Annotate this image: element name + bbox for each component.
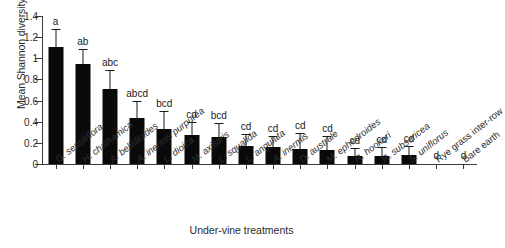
significance-letter: bcd bbox=[156, 98, 172, 109]
x-tick-mark bbox=[137, 164, 138, 169]
x-tick-mark bbox=[110, 164, 111, 169]
y-tick-label: 0.4 bbox=[24, 116, 38, 127]
significance-letter: abc bbox=[102, 57, 118, 68]
x-tick-mark bbox=[436, 164, 437, 169]
significance-letter: abcd bbox=[126, 88, 148, 99]
x-tick-mark bbox=[273, 164, 274, 169]
x-tick-mark bbox=[219, 164, 220, 169]
significance-letter: cd bbox=[295, 120, 306, 131]
bar-item: a bbox=[42, 16, 69, 164]
error-bar bbox=[109, 71, 110, 89]
y-tick-label: 0.6 bbox=[24, 95, 38, 106]
error-bar bbox=[137, 102, 138, 118]
y-tick-label: 0.2 bbox=[24, 137, 38, 148]
x-tick-mark bbox=[355, 164, 356, 169]
error-bar-cap bbox=[214, 123, 223, 124]
y-tick-label: 0.8 bbox=[24, 74, 38, 85]
error-bar-cap bbox=[133, 101, 142, 102]
x-tick-mark bbox=[56, 164, 57, 169]
x-tick-mark bbox=[300, 164, 301, 169]
x-tick-mark bbox=[409, 164, 410, 169]
x-axis-title: Under-vine treatments bbox=[0, 224, 483, 236]
y-tick-label: 1 bbox=[32, 53, 38, 64]
x-tick-mark bbox=[83, 164, 84, 169]
x-tick-mark bbox=[327, 164, 328, 169]
bar bbox=[48, 47, 63, 164]
error-bar bbox=[164, 112, 165, 129]
significance-letter: ab bbox=[77, 36, 88, 47]
error-bar-cap bbox=[51, 29, 60, 30]
x-tick-mark bbox=[382, 164, 383, 169]
x-tick-mark bbox=[246, 164, 247, 169]
y-tick-label: 0 bbox=[32, 159, 38, 170]
error-bar bbox=[55, 30, 56, 47]
error-bar-cap bbox=[105, 70, 114, 71]
x-tick-mark bbox=[192, 164, 193, 169]
significance-letter: bcd bbox=[211, 110, 227, 121]
y-tick-label: 1.2 bbox=[24, 32, 38, 43]
y-tick-label: 1.4 bbox=[24, 11, 38, 22]
significance-letter: a bbox=[53, 16, 59, 27]
x-tick-mark bbox=[164, 164, 165, 169]
x-tick-mark bbox=[463, 164, 464, 169]
error-bar-cap bbox=[78, 49, 87, 50]
error-bar bbox=[82, 50, 83, 64]
error-bar-cap bbox=[160, 111, 169, 112]
